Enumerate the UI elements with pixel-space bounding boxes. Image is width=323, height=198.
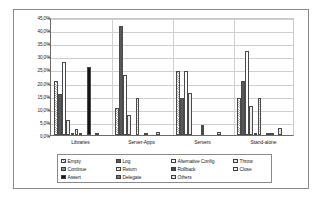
bar-group: [176, 19, 231, 135]
legend-item[interactable]: Assert: [61, 175, 116, 180]
x-axis-tick-label: Server-Apps: [128, 139, 155, 145]
bar: [237, 98, 241, 135]
bar: [58, 94, 62, 135]
bar: [249, 106, 253, 135]
bar: [144, 133, 148, 135]
legend-item[interactable]: Empty: [61, 159, 116, 164]
legend-swatch-icon: [61, 167, 66, 172]
legend-swatch-icon: [116, 175, 121, 180]
legend-item[interactable]: Delegate: [116, 175, 171, 180]
legend-label: Close: [240, 167, 252, 172]
legend-label: Empty: [68, 159, 81, 164]
bar: [241, 81, 245, 135]
bar: [278, 128, 282, 135]
bar-group: [115, 19, 170, 135]
chart-figure: 45,0%40,0%35,0%30,0%25,0%20,0%15,0%10,0%…: [13, 9, 309, 189]
legend-item[interactable]: Throw: [233, 159, 273, 164]
legend-item[interactable]: Log: [116, 159, 171, 164]
group-separator: [173, 19, 174, 135]
bar: [123, 75, 127, 135]
bar-group: [54, 19, 109, 135]
bar: [258, 98, 262, 135]
legend-item[interactable]: Close: [233, 167, 273, 172]
legend-label: Continue: [68, 167, 87, 172]
y-axis-tick-mark: [48, 136, 50, 137]
y-axis-tick-label: 15,0%: [16, 94, 50, 99]
legend-grid: EmptyContinueAssertLogReturnDelegateAlte…: [61, 157, 268, 181]
bar: [184, 71, 188, 135]
legend-label: Rollback: [178, 167, 196, 172]
y-axis-tick-label: 45,0%: [16, 16, 50, 21]
legend-label: Alternative Config: [178, 159, 215, 164]
legend-swatch-icon: [233, 167, 238, 172]
legend-label: Delegate: [123, 175, 142, 180]
legend-label: Others: [178, 175, 192, 180]
legend-label: Return: [123, 167, 137, 172]
legend-label: Assert: [68, 175, 81, 180]
bar: [119, 26, 123, 135]
bar: [54, 81, 58, 135]
bar: [115, 108, 119, 135]
bar: [180, 98, 184, 135]
legend-label: Log: [123, 159, 131, 164]
y-axis-tick-label: 10,0%: [16, 107, 50, 112]
y-axis-tick-label: 25,0%: [16, 68, 50, 73]
bar: [79, 133, 83, 135]
bar: [270, 133, 274, 135]
y-axis-tick-label: 5,0%: [16, 120, 50, 125]
legend-swatch-icon: [61, 175, 66, 180]
y-axis-tick-label: 40,0%: [16, 29, 50, 34]
bar: [266, 133, 270, 135]
bar: [156, 132, 160, 135]
legend-label: Throw: [240, 159, 253, 164]
plot-area: [50, 18, 294, 136]
legend-item[interactable]: Rollback: [171, 167, 233, 172]
legend-item[interactable]: Continue: [61, 167, 116, 172]
legend-swatch-icon: [116, 167, 121, 172]
bar: [95, 133, 99, 135]
bar: [66, 120, 70, 135]
bar-group: [237, 19, 292, 135]
legend-swatch-icon: [171, 175, 176, 180]
bar: [217, 132, 221, 135]
bar: [62, 62, 66, 135]
y-axis-tick-label: 35,0%: [16, 42, 50, 47]
legend-swatch-icon: [233, 159, 238, 164]
x-axis-tick-label: Servers: [194, 139, 211, 145]
legend-swatch-icon: [61, 159, 66, 164]
bar: [176, 71, 180, 135]
legend-item[interactable]: Others: [171, 175, 233, 180]
group-separator: [112, 19, 113, 135]
bar: [245, 51, 249, 135]
bar: [188, 93, 192, 135]
x-axis-tick-label: Stand-alone: [251, 139, 277, 145]
legend-item[interactable]: Alternative Config: [171, 159, 233, 164]
bar: [136, 98, 140, 135]
bar: [75, 129, 79, 135]
bar: [254, 133, 258, 135]
legend-swatch-icon: [171, 159, 176, 164]
chart-legend: EmptyContinueAssertLogReturnDelegateAlte…: [57, 154, 272, 183]
y-axis: 45,0%40,0%35,0%30,0%25,0%20,0%15,0%10,0%…: [14, 18, 50, 136]
group-separator: [234, 19, 235, 135]
bar: [87, 67, 91, 135]
bar: [71, 133, 75, 135]
y-axis-tick-label: 20,0%: [16, 81, 50, 86]
y-axis-tick-label: 0,0%: [16, 134, 50, 139]
bar: [127, 115, 131, 135]
legend-swatch-icon: [116, 159, 121, 164]
legend-item[interactable]: Return: [116, 167, 171, 172]
y-axis-tick-label: 30,0%: [16, 55, 50, 60]
x-axis-tick-label: Libraries: [71, 139, 89, 145]
legend-swatch-icon: [171, 167, 176, 172]
bar: [201, 125, 205, 135]
